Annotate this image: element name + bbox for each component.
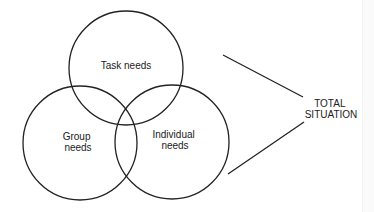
total-situation-label: TOTAL SITUATION [305, 98, 358, 120]
upper-connector-line [223, 55, 303, 97]
task-needs-label: Task needs [101, 60, 152, 71]
lower-connector-line [228, 122, 304, 174]
group-needs-label: Group needs [63, 131, 94, 153]
individual-needs-label: Individual needs [152, 129, 197, 151]
